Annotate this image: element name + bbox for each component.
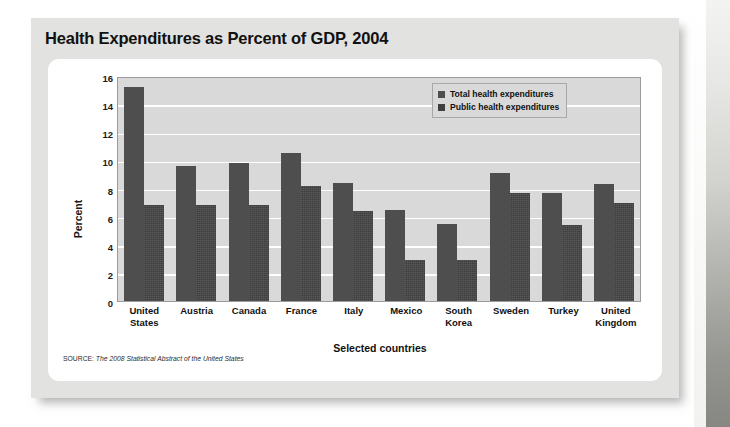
chart-panel: Percent 0246810121416 UnitedStatesAustri… xyxy=(48,59,662,381)
x-axis-tick-label-line: France xyxy=(275,305,327,317)
bar-public xyxy=(301,186,321,301)
x-axis-tick-label: Sweden xyxy=(485,305,537,328)
page-edge-inner xyxy=(694,0,706,427)
x-axis-tick-label: UnitedStates xyxy=(118,305,170,328)
x-axis-tick-label: UnitedKingdom xyxy=(590,305,642,328)
legend-swatch-total-icon xyxy=(438,91,445,98)
x-axis-tick-label-line: Italy xyxy=(328,305,380,317)
bar-group xyxy=(170,78,222,301)
bar-group xyxy=(379,78,431,301)
page-edge-strip xyxy=(706,0,730,427)
bar-total xyxy=(437,224,457,301)
bar-total xyxy=(281,153,301,301)
y-axis-tick: 16 xyxy=(102,73,113,84)
bar-total xyxy=(594,184,614,301)
bar-public xyxy=(144,205,164,301)
y-axis-tick: 6 xyxy=(108,213,113,224)
source-note: SOURCE: The 2008 Statistical Abstract of… xyxy=(63,355,244,362)
y-axis-tick: 4 xyxy=(108,241,113,252)
legend-item-public: Public health expenditures xyxy=(438,101,559,113)
bar-group xyxy=(118,78,170,301)
bar-total xyxy=(176,166,196,301)
bar-group xyxy=(588,78,640,301)
bar-group xyxy=(327,78,379,301)
x-axis-tick-label-line: Sweden xyxy=(485,305,537,317)
bar-total xyxy=(385,210,405,301)
x-axis-tick-label-line: States xyxy=(118,317,170,329)
chart-legend: Total health expenditures Public health … xyxy=(432,83,567,118)
y-axis-tick: 8 xyxy=(108,185,113,196)
bar-total xyxy=(490,173,510,301)
x-axis-tick-label: Turkey xyxy=(537,305,589,328)
bar-total xyxy=(229,163,249,301)
legend-label-total: Total health expenditures xyxy=(450,89,553,99)
legend-label-public: Public health expenditures xyxy=(450,102,559,112)
bar-public xyxy=(614,203,634,301)
x-axis-tick-label-line: Korea xyxy=(432,317,484,329)
legend-swatch-public-icon xyxy=(438,104,445,111)
x-axis-tick-label-line: Turkey xyxy=(537,305,589,317)
x-axis-tick-labels: UnitedStatesAustriaCanadaFranceItalyMexi… xyxy=(118,305,642,328)
bar-public xyxy=(510,193,530,301)
page-title: Health Expenditures as Percent of GDP, 2… xyxy=(45,29,388,48)
y-axis-tick: 14 xyxy=(102,101,113,112)
x-axis-tick-label-line: South xyxy=(432,305,484,317)
legend-item-total: Total health expenditures xyxy=(438,88,559,100)
figure-root: Health Expenditures as Percent of GDP, 2… xyxy=(0,0,730,427)
bar-group xyxy=(275,78,327,301)
x-axis-tick-label-line: Mexico xyxy=(380,305,432,317)
bar-total xyxy=(124,87,144,301)
x-axis-tick-label: Canada xyxy=(223,305,275,328)
bar-total xyxy=(333,183,353,301)
x-axis-tick-label: Austria xyxy=(170,305,222,328)
bar-total xyxy=(542,193,562,301)
x-axis-tick-label-line: Austria xyxy=(170,305,222,317)
x-axis-tick-label: Mexico xyxy=(380,305,432,328)
y-axis-tick: 2 xyxy=(108,269,113,280)
bar-group xyxy=(222,78,274,301)
bar-public xyxy=(457,260,477,301)
y-axis-tick: 10 xyxy=(102,157,113,168)
y-axis-label: Percent xyxy=(72,179,84,259)
x-axis-label: Selected countries xyxy=(118,342,642,354)
y-axis-tick: 0 xyxy=(108,298,113,309)
source-title: The 2008 Statistical Abstract of the Uni… xyxy=(96,355,244,362)
bar-public xyxy=(196,205,216,301)
bar-public xyxy=(353,211,373,301)
source-label: SOURCE: xyxy=(63,355,94,362)
x-axis-tick-label-line: Canada xyxy=(223,305,275,317)
x-axis-tick-label: Italy xyxy=(328,305,380,328)
figure-card: Health Expenditures as Percent of GDP, 2… xyxy=(31,18,679,398)
bar-public xyxy=(562,225,582,301)
bar-public xyxy=(405,260,425,301)
x-axis-tick-label: SouthKorea xyxy=(432,305,484,328)
x-axis-tick-label: France xyxy=(275,305,327,328)
bar-public xyxy=(249,205,269,301)
y-axis-tick: 12 xyxy=(102,129,113,140)
x-axis-tick-label-line: United xyxy=(118,305,170,317)
plot-wrapper: Percent 0246810121416 UnitedStatesAustri… xyxy=(48,59,662,381)
x-axis-tick-label-line: United xyxy=(590,305,642,317)
x-axis-tick-label-line: Kingdom xyxy=(590,317,642,329)
